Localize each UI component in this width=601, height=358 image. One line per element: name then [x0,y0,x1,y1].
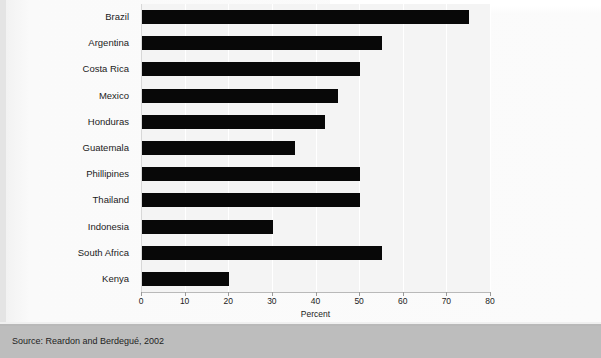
category-label: Guatemala [83,141,129,155]
bar [142,10,469,24]
gridline [490,4,491,292]
bar [142,272,229,286]
category-label: Brazil [105,10,129,24]
gridline [403,4,404,292]
x-tick-label: 20 [224,296,233,306]
category-label: South Africa [78,246,129,260]
category-axis-labels: BrazilArgentinaCosta RicaMexicoHondurasG… [0,4,135,292]
category-label: Phillipines [86,167,129,181]
category-label: Thailand [93,193,129,207]
plot-area [141,4,490,292]
x-tick-label: 10 [180,296,189,306]
category-label: Honduras [88,115,129,129]
x-tick-label: 60 [398,296,407,306]
category-label: Argentina [88,36,129,50]
x-tick-label: 50 [354,296,363,306]
bar [142,193,360,207]
bar [142,115,325,129]
bar [142,89,338,103]
bar [142,62,360,76]
x-tick-label: 30 [267,296,276,306]
gridline [446,4,447,292]
source-text: Source: Reardon and Berdegué, 2002 [12,336,164,346]
x-axis: 01020304050607080 [141,292,490,304]
x-tick-label: 40 [311,296,320,306]
x-tick-label: 0 [139,296,144,306]
bar [142,220,273,234]
category-label: Costa Rica [83,62,129,76]
x-tick-label: 70 [442,296,451,306]
bar [142,167,360,181]
category-label: Mexico [99,89,129,103]
source-band-inner: Source: Reardon and Berdegué, 2002 [0,326,601,358]
category-label: Indonesia [88,220,129,234]
bar [142,246,382,260]
category-label: Kenya [102,272,129,286]
x-axis-title: Percent [141,309,490,319]
x-tick-label: 80 [485,296,494,306]
bar [142,141,295,155]
source-band: Source: Reardon and Berdegué, 2002 [0,324,601,358]
plot-inner [141,4,490,292]
bar [142,36,382,50]
figure-canvas: BrazilArgentinaCosta RicaMexicoHondurasG… [0,0,601,358]
